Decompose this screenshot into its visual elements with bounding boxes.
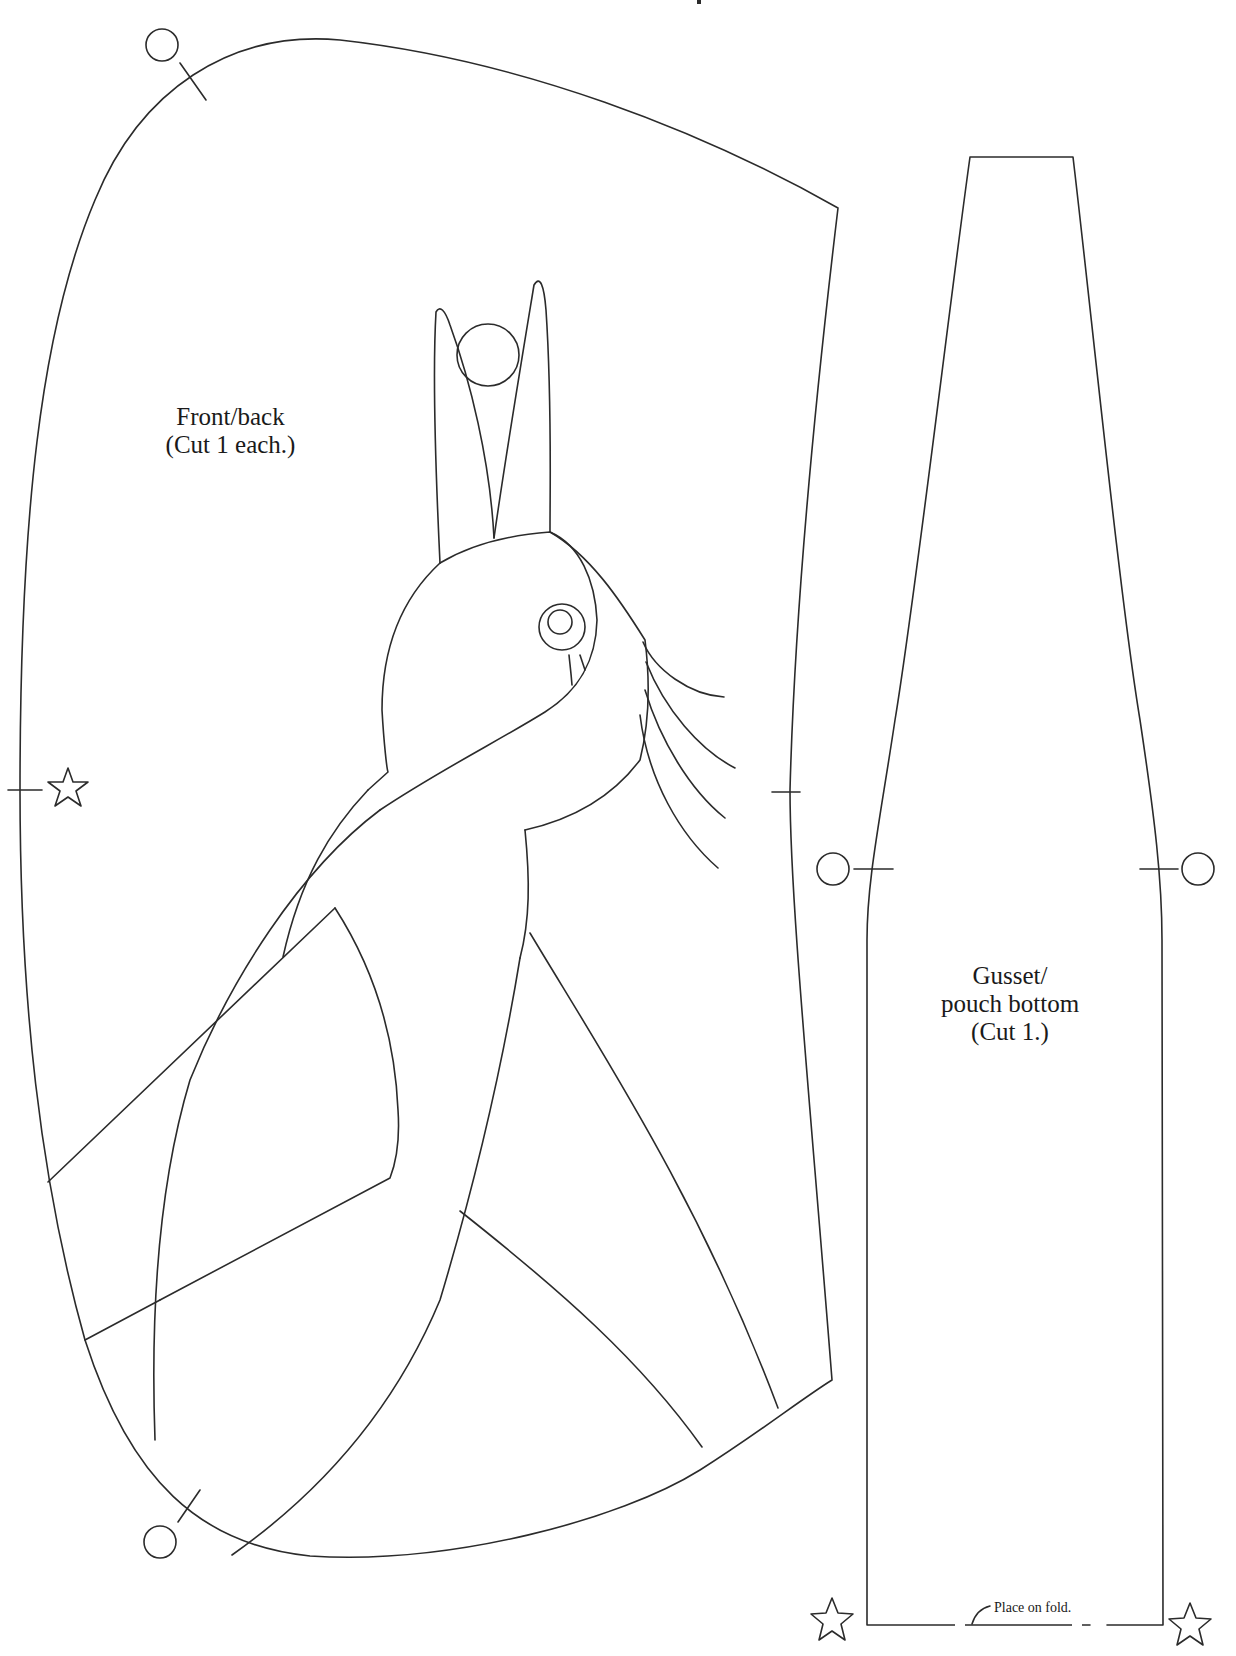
- branch-line-lower: [460, 1211, 702, 1447]
- rabbit-head: [380, 532, 597, 810]
- rabbit-haunch: [160, 908, 399, 1300]
- front-back-cut-instruction: (Cut 1 each.): [148, 431, 313, 459]
- fold-note-leader: [972, 1606, 990, 1624]
- notch-bottom-left: [178, 1490, 200, 1522]
- branch-line-bottom-left: [85, 1300, 160, 1340]
- front-back-title: Front/back: [148, 403, 313, 431]
- branch-line-upper: [48, 908, 335, 1182]
- rabbit-eye-lash-2: [580, 655, 585, 670]
- rabbit-whisker-2: [646, 662, 735, 768]
- gusset-subtitle: pouch bottom: [925, 990, 1095, 1018]
- front-back-label: Front/back (Cut 1 each.): [148, 403, 313, 459]
- front-back-outline: [20, 39, 838, 1557]
- rabbit-head-back: [368, 563, 440, 790]
- star-icon-gusset-left: [811, 1598, 853, 1640]
- rabbit-back-inner: [283, 790, 368, 957]
- circle-marker-ear: [457, 324, 519, 386]
- circle-marker-gusset-left: [817, 853, 849, 885]
- circle-marker-gusset-right: [1182, 853, 1214, 885]
- circle-marker-top-left: [146, 29, 178, 61]
- gusset-outline: [867, 157, 1163, 1625]
- gusset-title: Gusset/: [925, 962, 1095, 990]
- star-icon-gusset-right: [1169, 1603, 1211, 1645]
- rabbit-whisker-1: [643, 642, 724, 697]
- circle-marker-bottom-left: [144, 1526, 176, 1558]
- clipped-heading-fragment: [697, 0, 701, 4]
- rabbit-eye-lash-1: [569, 655, 572, 685]
- rabbit-ear-left: [434, 309, 494, 563]
- star-icon-left: [48, 768, 88, 806]
- branch-line-right: [530, 933, 778, 1408]
- rabbit-neck: [520, 830, 528, 958]
- rabbit-ear-right: [494, 281, 550, 538]
- rabbit-face-line: [525, 532, 648, 830]
- rabbit-whisker-4: [640, 715, 718, 868]
- gusset-label: Gusset/ pouch bottom (Cut 1.): [925, 962, 1095, 1046]
- rabbit-back: [154, 810, 380, 1440]
- sewing-pattern-canvas: [0, 0, 1236, 1656]
- rabbit-front-body: [232, 958, 520, 1555]
- rabbit-eye-inner: [548, 610, 572, 634]
- gusset-cut-instruction: (Cut 1.): [925, 1018, 1095, 1046]
- fold-note: Place on fold.: [994, 1600, 1071, 1616]
